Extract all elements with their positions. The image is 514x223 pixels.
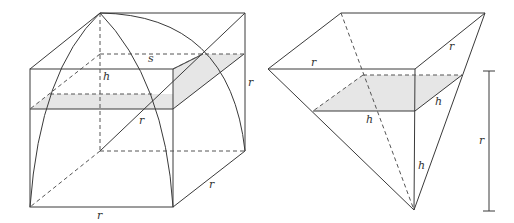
figure-cube-dome: s h r r r r [30, 13, 254, 222]
label-r-bottom: r [97, 209, 103, 222]
label-h-slab-front: h [366, 113, 373, 126]
label-r-top-left: r [311, 56, 317, 69]
label-r-diagonal: r [139, 114, 145, 127]
front-face [30, 69, 173, 207]
diagram-canvas: s h r r r r r r h h h r [0, 0, 514, 223]
label-r-top-right: r [449, 40, 455, 53]
label-h-vertical: h [418, 159, 425, 172]
label-r-depth: r [209, 178, 215, 191]
label-r-right: r [248, 76, 254, 89]
pyramid-top-left [268, 13, 341, 69]
label-r-measure: r [479, 134, 485, 147]
figure-inverted-pyramid: r r h h h r [268, 13, 495, 211]
dome-arc-left [30, 13, 100, 207]
bottom-left-hidden [30, 151, 100, 207]
dome-arc-front [100, 13, 173, 207]
label-h-slab-side: h [435, 95, 442, 108]
label-s: s [148, 52, 154, 65]
label-h: h [103, 70, 110, 83]
